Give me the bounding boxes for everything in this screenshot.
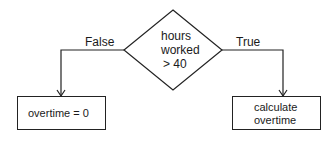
calculate-overtime-text: calculate overtime: [254, 101, 297, 127]
decision-line-1: hours: [161, 29, 200, 43]
overtime-zero-box: overtime = 0: [17, 96, 106, 130]
false-label: False: [85, 35, 114, 49]
decision-text: hours worked > 40: [161, 29, 200, 71]
decision-line-2: worked: [161, 43, 200, 57]
calculate-overtime-box: calculate overtime: [232, 96, 321, 130]
decision-line-3: > 40: [161, 57, 200, 71]
calc-line-2: overtime: [254, 114, 297, 127]
true-label: True: [236, 35, 260, 49]
calc-line-1: calculate: [254, 101, 297, 114]
true-branch-connector: [222, 50, 283, 96]
false-branch-connector: [61, 50, 124, 96]
overtime-zero-text: overtime = 0: [28, 107, 89, 120]
